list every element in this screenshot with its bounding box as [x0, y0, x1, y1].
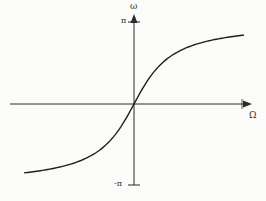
x-axis-label: Ω [249, 111, 256, 120]
y-tick-label-pi: π [121, 17, 126, 25]
frequency-warping-chart [0, 0, 266, 201]
x-axis-arrow-icon [243, 101, 252, 108]
y-tick-label-neg-pi: -π [114, 180, 122, 188]
y-axis-label: ω [130, 2, 137, 11]
